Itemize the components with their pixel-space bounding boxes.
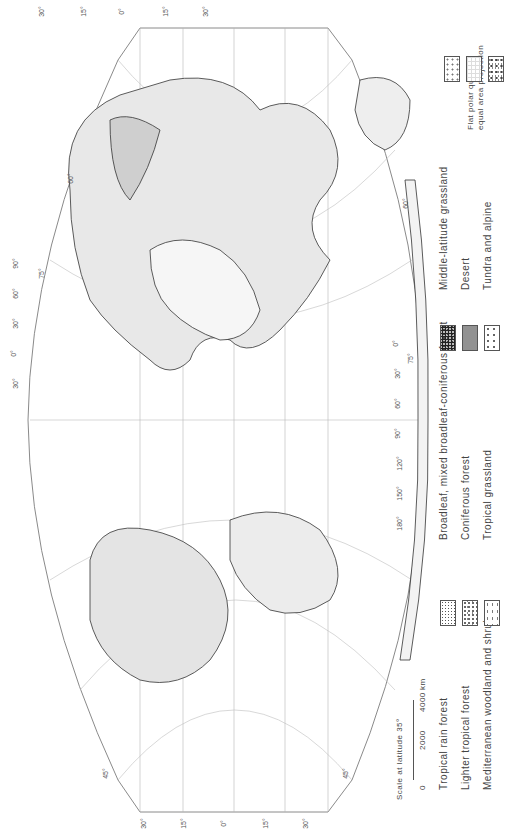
lat-label: 30° [202, 6, 209, 17]
lat-label: 30° [38, 6, 45, 17]
parallel-label: 60° [67, 173, 74, 184]
legend-label-lighter-tropical-forest: Lighter tropical forest [460, 685, 471, 790]
lon-label: 150° [396, 486, 403, 500]
lon-label: 0° [392, 340, 399, 347]
scale-unit: km [418, 678, 427, 690]
north-america [90, 528, 228, 683]
australia [355, 78, 410, 151]
scale-tick-4000: 4000 [418, 692, 427, 712]
lat-label: 30° [302, 818, 309, 829]
legend-label-middle-latitude-grassland: Middle-latitude grassland [438, 166, 449, 290]
lat-label: 30° [140, 818, 147, 829]
lon-label: 30° [394, 368, 401, 379]
legend-swatch-broadleaf [440, 325, 456, 351]
lon-label: 30° [12, 378, 19, 389]
legend-swatch-coniferous [462, 325, 478, 351]
parallel-label: 45° [342, 768, 349, 779]
legend-swatch-lighter-tropical-forest [462, 600, 478, 626]
lat-label: 15° [80, 6, 87, 17]
lon-label: 120° [396, 456, 403, 470]
lon-label: 90° [394, 428, 401, 439]
scale-tick-2000: 2000 [418, 730, 427, 750]
lon-label: 30° [12, 318, 19, 329]
legend-label-tropical-grassland: Tropical grassland [482, 450, 493, 540]
legend-swatch-tropical-grassland [484, 325, 500, 351]
legend-label-tundra: Tundra and alpine [482, 201, 493, 290]
lat-label: 15° [262, 818, 269, 829]
legend-swatch-desert [466, 56, 482, 82]
lon-label: 60° [12, 288, 19, 299]
south-america [230, 512, 338, 613]
legend-swatch-mediterranean [484, 600, 500, 626]
scale-label: Scale at latitude 35° [395, 718, 404, 800]
scale-bar [413, 700, 414, 780]
lon-label: 60° [394, 398, 401, 409]
lat-label: 0° [220, 820, 227, 827]
legend-swatch-tundra [488, 56, 504, 82]
legend-label-coniferous: Coniferous forest [460, 455, 471, 540]
legend-swatch-tropical-rain-forest [440, 600, 456, 626]
lon-label: 180° [396, 516, 403, 530]
parallel-label: 75° [38, 268, 45, 279]
legend-label-broadleaf: Broadleaf, mixed broadleaf-coniferous fo… [438, 321, 449, 540]
legend-label-tropical-rain-forest: Tropical rain forest [438, 698, 449, 790]
lat-label: 15° [162, 6, 169, 17]
parallel-label: 60° [402, 198, 409, 209]
parallel-label: 75° [407, 353, 414, 364]
lon-label: 90° [12, 258, 19, 269]
legend-label-desert: Desert [460, 258, 471, 290]
world-vegetation-map: 30° 15° 0° 15° 30° 30° 15° 0° 15° 30° 75… [0, 0, 523, 839]
lon-label: 0° [10, 350, 17, 357]
scale-tick-0: 0 [418, 785, 427, 790]
parallel-label: 45° [102, 768, 109, 779]
legend-label-mediterranean: Mediterranean woodland and shrub [482, 617, 493, 790]
lat-label: 15° [180, 818, 187, 829]
legend-swatch-middle-latitude-grassland [444, 56, 460, 82]
lat-label: 0° [118, 8, 125, 15]
